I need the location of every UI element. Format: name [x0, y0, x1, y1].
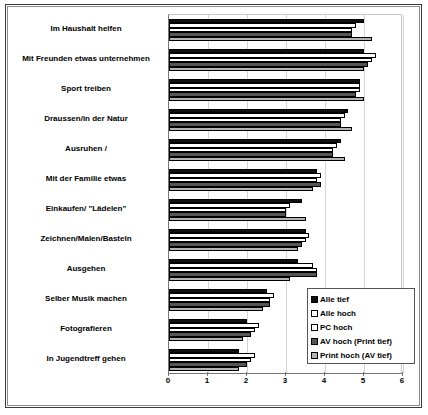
bar-group	[169, 15, 401, 45]
y-axis-label: In Jugendtreff gehen	[11, 354, 161, 363]
y-axis-label: Einkaufen/ "Lädelen"	[11, 204, 161, 213]
bar	[169, 307, 263, 312]
x-axis-tick-label: 4	[314, 376, 334, 385]
legend-label: AV hoch (Print tief)	[320, 337, 392, 346]
y-axis-label: Ausgehen	[11, 264, 161, 273]
bar	[169, 337, 243, 342]
bar	[169, 277, 290, 282]
x-axis-tick-label: 6	[392, 376, 412, 385]
y-axis-label: Sport treiben	[11, 84, 161, 93]
legend-label: PC hoch	[320, 323, 352, 332]
bar-group	[169, 255, 401, 285]
legend-label: Alle hoch	[320, 309, 356, 318]
x-axis-tick-label: 0	[158, 376, 178, 385]
x-axis-tick-label: 1	[197, 376, 217, 385]
bar	[169, 157, 345, 162]
x-axis-tick-label: 2	[236, 376, 256, 385]
y-axis-label: Mit Freunden etwas unternehmen	[11, 54, 161, 63]
y-axis-category-labels: Im Haushalt helfenMit Freunden etwas unt…	[10, 14, 165, 374]
legend-item: Print hoch (AV tief)	[311, 348, 412, 362]
legend-swatch-icon	[311, 352, 318, 359]
bar-group	[169, 135, 401, 165]
bar	[169, 247, 298, 252]
legend-item: Alle hoch	[311, 306, 412, 320]
legend-swatch-icon	[311, 324, 318, 331]
y-axis-label: Draussen/in der Natur	[11, 114, 161, 123]
chart-figure: Im Haushalt helfenMit Freunden etwas unt…	[0, 0, 428, 415]
x-axis-tick-label: 3	[275, 376, 295, 385]
bar-group	[169, 195, 401, 225]
y-axis-label: Mit der Familie etwas	[11, 174, 161, 183]
bar-group	[169, 225, 401, 255]
x-axis-tick-labels: 0123456	[168, 376, 404, 390]
legend-item: PC hoch	[311, 320, 412, 334]
chart-legend: Alle tiefAlle hochPC hochAV hoch (Print …	[307, 288, 415, 364]
bar	[169, 217, 306, 222]
legend-item: Alle tief	[311, 292, 412, 306]
bar	[169, 97, 364, 102]
legend-item: AV hoch (Print tief)	[311, 334, 412, 348]
x-axis-tick-label: 5	[353, 376, 373, 385]
legend-swatch-icon	[311, 310, 318, 317]
y-axis-label: Fotografieren	[11, 324, 161, 333]
legend-swatch-icon	[311, 338, 318, 345]
bar	[169, 127, 352, 132]
bar	[169, 367, 239, 372]
bar-group	[169, 105, 401, 135]
bar-group	[169, 45, 401, 75]
bar-group	[169, 75, 401, 105]
bar	[169, 37, 372, 42]
y-axis-label: Im Haushalt helfen	[11, 24, 161, 33]
bar-group	[169, 165, 401, 195]
y-axis-label: Zeichnen/Malen/Basteln	[11, 234, 161, 243]
bar	[169, 187, 313, 192]
legend-swatch-icon	[311, 296, 318, 303]
y-axis-label: Selber Musik machen	[11, 294, 161, 303]
y-axis-label: Ausruhen /	[11, 144, 161, 153]
legend-label: Print hoch (AV tief)	[320, 351, 392, 360]
bar	[169, 67, 364, 72]
legend-label: Alle tief	[320, 295, 349, 304]
